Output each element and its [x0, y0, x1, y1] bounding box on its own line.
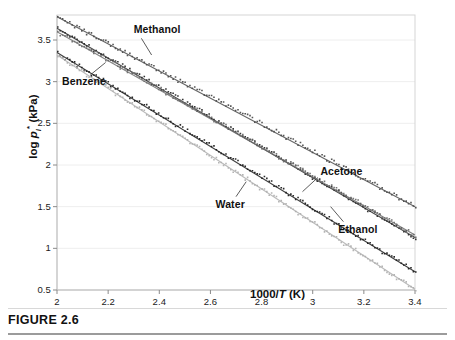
series-leader-line [331, 207, 344, 222]
series-label-acetone: Acetone [320, 165, 362, 177]
y-tick-label: 0.5 [25, 284, 51, 295]
chart-svg [0, 0, 455, 305]
series-acetone [57, 16, 417, 208]
caption-divider-bottom [8, 333, 447, 335]
caption-divider-top [8, 308, 447, 309]
series-label-benzene: Benzene [62, 75, 106, 87]
series-trendline [57, 17, 415, 207]
figure-2-6: AcetoneMethanolBenzeneEthanolWater0.511.… [0, 0, 455, 340]
y-tick-label: 3.5 [25, 34, 51, 45]
y-axis-title: log pi* (kPa) [25, 67, 42, 187]
series-leader-line [236, 182, 246, 197]
figure-caption-block: FIGURE 2.6 [0, 305, 455, 340]
series-label-ethanol: Ethanol [338, 223, 377, 235]
series-label-water: Water [216, 198, 245, 210]
series-leader-line [141, 38, 151, 55]
figure-caption-text: FIGURE 2.6 [8, 313, 79, 327]
series-trendline [57, 53, 415, 272]
x-axis-title: 1000/T (K) [250, 288, 305, 300]
series-leader-line [90, 63, 105, 76]
chart-plot-area: AcetoneMethanolBenzeneEthanolWater0.511.… [0, 0, 455, 305]
y-tick-label: 1 [25, 242, 51, 253]
y-tick-label: 1.5 [25, 201, 51, 212]
series-label-methanol: Methanol [134, 23, 181, 35]
series-ethanol [57, 51, 417, 273]
